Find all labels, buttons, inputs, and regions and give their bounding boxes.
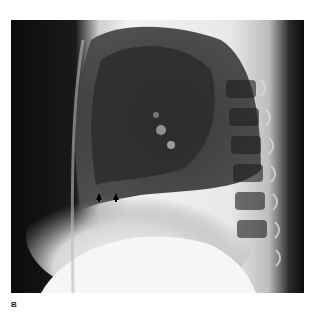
lateral-chest-radiograph (11, 20, 304, 293)
annotation-arrow-icon (96, 193, 102, 200)
panel-label: B (11, 300, 17, 309)
annotation-arrow-icon (113, 193, 119, 200)
